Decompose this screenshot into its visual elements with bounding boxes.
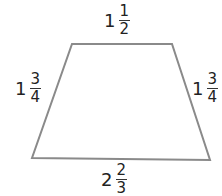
left-whole: 1 <box>15 80 26 98</box>
bottom-numerator: 2 <box>115 163 127 179</box>
trapezoid-outline <box>32 44 210 160</box>
bottom-fraction: 2 3 <box>115 163 127 196</box>
right-denominator: 4 <box>207 89 217 105</box>
right-fraction: 3 4 <box>206 72 218 105</box>
top-fraction: 1 2 <box>118 4 130 37</box>
top-whole: 1 <box>104 12 115 30</box>
left-fraction: 3 4 <box>29 72 41 105</box>
left-denominator: 4 <box>30 89 40 105</box>
left-side-label: 1 3 4 <box>15 72 41 105</box>
top-numerator: 1 <box>118 4 130 20</box>
right-whole: 1 <box>192 80 203 98</box>
right-numerator: 3 <box>206 72 218 88</box>
bottom-whole: 2 <box>101 171 112 189</box>
top-denominator: 2 <box>119 21 129 37</box>
top-side-label: 1 1 2 <box>104 4 130 37</box>
right-side-label: 1 3 4 <box>192 72 218 105</box>
left-numerator: 3 <box>29 72 41 88</box>
bottom-denominator: 3 <box>116 180 126 196</box>
bottom-side-label: 2 2 3 <box>101 163 127 196</box>
